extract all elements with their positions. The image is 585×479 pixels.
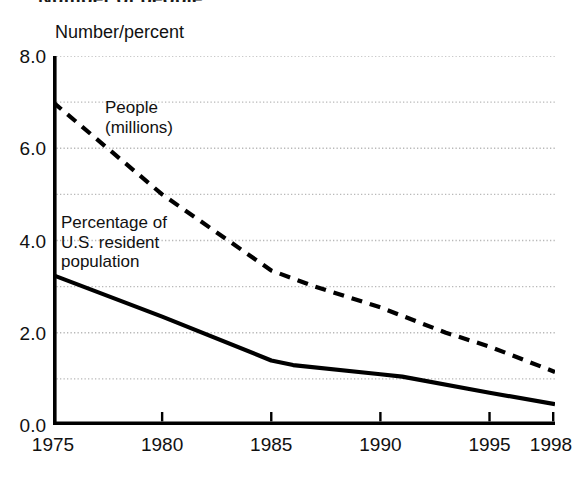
x-tick-label: 1990	[359, 435, 401, 454]
y-tick-label: 8.0	[20, 47, 46, 66]
y-tick-label: 6.0	[20, 139, 46, 158]
series-label-people: People (millions)	[105, 98, 173, 137]
x-tick-label: 1975	[32, 435, 74, 454]
y-tick-label: 0.0	[20, 416, 46, 435]
x-tick-label: 1995	[468, 435, 510, 454]
x-axis-ticks	[55, 412, 553, 421]
series-label-percentage: Percentage of U.S. resident population	[61, 213, 167, 272]
y-axis-unit-label: Number/percent	[55, 22, 184, 42]
series-line-2	[53, 275, 555, 404]
x-tick-label: 1998	[530, 435, 572, 454]
x-tick-label: 1985	[250, 435, 292, 454]
y-tick-label: 4.0	[20, 231, 46, 250]
y-tick-label: 2.0	[20, 323, 46, 342]
chart-figure: Number of people Number/percent 8.06.04.…	[0, 0, 585, 479]
x-tick-label: 1980	[141, 435, 183, 454]
chart-title-cropped: Number of people	[38, 0, 558, 2]
